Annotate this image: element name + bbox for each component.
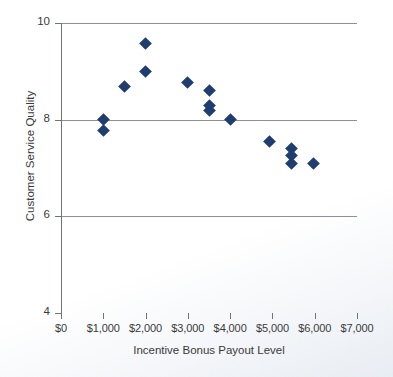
x-axis-tick xyxy=(272,313,273,319)
x-axis-tick xyxy=(315,313,316,319)
x-axis-tick xyxy=(61,313,62,319)
y-axis-tick xyxy=(55,216,62,217)
data-point xyxy=(307,157,320,170)
data-point xyxy=(263,135,276,148)
x-axis-tick xyxy=(357,313,358,319)
x-axis-tick xyxy=(230,313,231,319)
y-axis-title: Customer Service Quality xyxy=(24,46,36,266)
x-axis-tick xyxy=(188,313,189,319)
x-axis-tick-label: $7,000 xyxy=(329,322,385,334)
data-point xyxy=(203,84,216,97)
data-point xyxy=(139,65,152,78)
x-axis-tick xyxy=(103,313,104,319)
gridline xyxy=(61,23,357,24)
scatter-chart: 46810 $0$1,000$2,000$3,000$4,000$5,000$6… xyxy=(0,0,393,377)
data-point xyxy=(181,76,194,89)
data-point xyxy=(139,37,152,50)
y-axis-tick-label: 10 xyxy=(10,15,50,27)
plot-area xyxy=(61,23,357,313)
data-point xyxy=(224,113,237,126)
data-point xyxy=(97,124,110,137)
gridline xyxy=(61,216,357,217)
x-axis-title: Incentive Bonus Payout Level xyxy=(61,344,357,356)
data-point xyxy=(118,80,131,93)
y-axis-tick xyxy=(55,120,62,121)
x-axis-tick xyxy=(146,313,147,319)
y-axis-tick-label: 4 xyxy=(10,305,50,317)
y-axis-tick xyxy=(55,23,62,24)
data-point xyxy=(285,157,298,170)
